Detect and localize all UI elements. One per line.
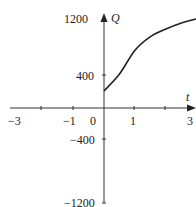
y-tick-m400: −400 xyxy=(70,133,95,147)
y-tick-1200: 1200 xyxy=(64,12,88,26)
x-axis-label: t xyxy=(186,90,190,104)
x-tick-3: 3 xyxy=(187,114,193,128)
y-axis-arrow-icon xyxy=(101,13,108,22)
x-tick-0: 0 xyxy=(90,114,96,128)
x-tick-m3: −3 xyxy=(8,114,21,128)
y-tick-m1200: −1200 xyxy=(64,196,95,207)
q-curve xyxy=(104,19,196,91)
y-tick-400: 400 xyxy=(76,69,94,83)
x-tick-1: 1 xyxy=(130,114,136,128)
x-tick-m1: −1 xyxy=(63,114,76,128)
y-axis-label: Q xyxy=(111,11,120,25)
x-axis-arrow-icon xyxy=(187,105,196,112)
chart: 1200 Q 400 t −3 −1 0 1 3 −400 −1200 xyxy=(0,0,196,207)
